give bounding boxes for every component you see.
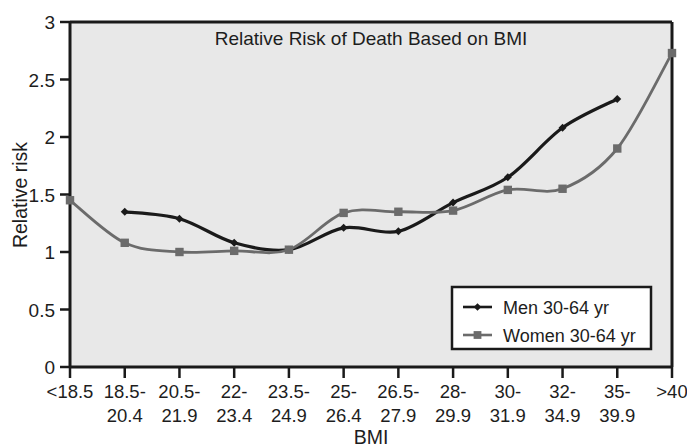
- data-point-marker: [339, 209, 347, 217]
- data-point-marker: [230, 247, 238, 255]
- x-tick-label: 32-: [549, 381, 576, 402]
- chart-legend: Men 30-64 yr Women 30-64 yr: [452, 287, 651, 349]
- x-tick-label: 22-: [221, 381, 248, 402]
- x-tick-label-line2: 29.9: [435, 405, 471, 426]
- data-point-marker: [285, 246, 293, 254]
- x-tick-label-line2: 21.9: [161, 405, 197, 426]
- y-tick-label: 2.5: [29, 70, 55, 91]
- x-tick-label: 23.5-: [268, 381, 310, 402]
- chart-figure: 00.511.522.53 <18.518.5-20.420.5-21.922-…: [0, 0, 687, 448]
- legend-label-women: Women 30-64 yr: [503, 326, 636, 346]
- data-point-marker: [558, 185, 566, 193]
- data-point-marker: [175, 248, 183, 256]
- x-tick-label-line2: 24.9: [271, 405, 307, 426]
- y-tick-label: 0: [44, 357, 55, 378]
- x-tick-label-line2: 39.9: [599, 405, 635, 426]
- x-tick-label-line2: 34.9: [545, 405, 581, 426]
- data-point-marker: [121, 239, 129, 247]
- relative-risk-line-chart: 00.511.522.53 <18.518.5-20.420.5-21.922-…: [0, 0, 687, 448]
- data-point-marker: [668, 49, 676, 57]
- y-tick-label: 1: [44, 242, 55, 263]
- square-marker-icon: [474, 331, 482, 339]
- legend-label-men: Men 30-64 yr: [503, 298, 609, 318]
- y-tick-label: 1.5: [29, 185, 55, 206]
- data-point-marker: [504, 186, 512, 194]
- x-tick-label: 26.5-: [377, 381, 419, 402]
- data-point-marker: [66, 196, 74, 204]
- x-tick-label-line2: 26.4: [326, 405, 362, 426]
- y-tick-label: 3: [44, 12, 55, 33]
- y-axis-title: Relative risk: [9, 142, 31, 248]
- x-tick-label-line2: 20.4: [107, 405, 143, 426]
- x-tick-label: >40: [656, 381, 687, 402]
- x-tick-label: 25-: [330, 381, 357, 402]
- x-tick-label-line2: 31.9: [490, 405, 526, 426]
- data-point-marker: [613, 144, 621, 152]
- y-tick-label: 2: [44, 127, 55, 148]
- chart-title: Relative Risk of Death Based on BMI: [215, 28, 528, 49]
- x-axis-title: BMI: [354, 426, 389, 448]
- x-tick-label: <18.5: [47, 381, 94, 402]
- y-tick-label: 0.5: [29, 300, 55, 321]
- data-point-marker: [449, 206, 457, 214]
- x-tick-label: 20.5-: [158, 381, 200, 402]
- x-tick-label-line2: 23.4: [216, 405, 252, 426]
- data-point-marker: [394, 208, 402, 216]
- x-tick-label-line2: 27.9: [380, 405, 416, 426]
- x-tick-label: 35-: [604, 381, 631, 402]
- x-tick-label: 30-: [494, 381, 521, 402]
- x-tick-label: 18.5-: [104, 381, 146, 402]
- x-tick-label: 28-: [440, 381, 467, 402]
